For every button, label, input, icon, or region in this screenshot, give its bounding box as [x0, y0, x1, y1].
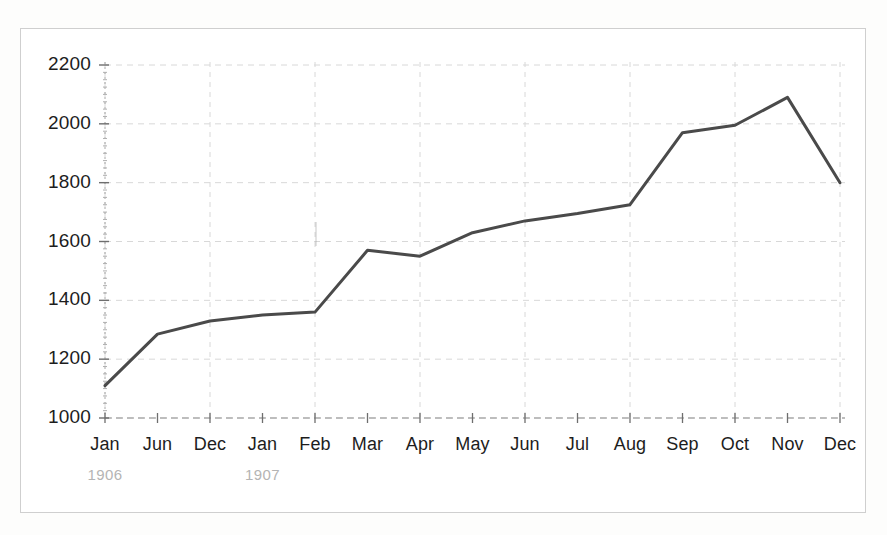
x-tick-label: Jan	[233, 434, 293, 455]
y-tick-label: 1400	[29, 288, 91, 310]
y-tick-label: 1800	[29, 171, 91, 193]
x-tick-label: Jun	[495, 434, 555, 455]
x-tick-label: Jul	[548, 434, 608, 455]
y-tick-label: 1600	[29, 230, 91, 252]
x-tick-label: Jan	[75, 434, 135, 455]
y-tick-label: 1000	[29, 406, 91, 428]
x-tick-label: Dec	[180, 434, 240, 455]
x-tick-label: Nov	[758, 434, 818, 455]
horizontal-gridlines	[105, 65, 845, 418]
vertical-gridlines	[105, 62, 840, 418]
x-tick-label: Sep	[653, 434, 713, 455]
x-tick-label: Aug	[600, 434, 660, 455]
x-tick-label: Mar	[338, 434, 398, 455]
y-tick-label: 2000	[29, 112, 91, 134]
x-axis-year-label: 1906	[75, 466, 135, 483]
x-tick-label: Jun	[128, 434, 188, 455]
x-axis-year-label: 1907	[233, 466, 293, 483]
chart-figure: 1000120014001600180020002200 JanJunDecJa…	[0, 0, 887, 535]
x-tick-label: Oct	[705, 434, 765, 455]
x-tick-label: Dec	[810, 434, 870, 455]
x-tick-label: May	[443, 434, 503, 455]
y-axis-ticks	[99, 65, 109, 418]
y-tick-label: 2200	[29, 53, 91, 75]
axis-lines	[105, 62, 845, 418]
x-tick-label: Feb	[285, 434, 345, 455]
y-tick-label: 1200	[29, 347, 91, 369]
x-tick-label: Apr	[390, 434, 450, 455]
